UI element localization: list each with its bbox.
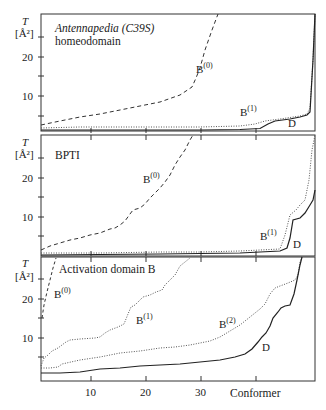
- y-tick-label-10: 10: [22, 211, 34, 223]
- panel-title: Antennapedia (C39S): [54, 22, 154, 35]
- panel-activation-domain-b: T [Å²] 20 10 Activation domain B B(0) B(…: [15, 257, 315, 399]
- y-axis-label-unit: [Å²]: [15, 27, 34, 39]
- panel-title: Activation domain B: [59, 263, 156, 275]
- series-d-line: [41, 190, 315, 255]
- panel-frame: [41, 257, 315, 381]
- label-b2: B(2): [219, 316, 236, 330]
- y-axis-label-t: T: [22, 136, 29, 148]
- panel-bpti: T [Å²] 20 10 BPTI B(0) B(1) D: [15, 135, 315, 256]
- y-axis-label-t: T: [22, 15, 29, 27]
- y-tick-label-10: 10: [22, 90, 34, 102]
- label-b1: B(1): [136, 312, 153, 326]
- label-d: D: [293, 238, 301, 250]
- y-axis-label-unit: [Å²]: [15, 270, 34, 282]
- x-axis-label: Conformer: [230, 387, 281, 399]
- label-d: D: [288, 117, 296, 129]
- panel-title: BPTI: [55, 149, 80, 161]
- label-b1: B(1): [240, 104, 257, 118]
- label-b1: B(1): [260, 228, 277, 242]
- x-tick-label-30: 30: [195, 386, 207, 398]
- panel-antennapedia: T [Å²] 20 10 Antennapedia (C39S) homeodo…: [15, 14, 315, 133]
- y-axis-label-t: T: [22, 257, 29, 269]
- label-d: D: [262, 341, 270, 353]
- figure: T [Å²] 20 10 Antennapedia (C39S) homeodo…: [0, 0, 326, 410]
- y-tick-label-20: 20: [22, 293, 34, 305]
- label-b0: B(0): [196, 61, 213, 75]
- label-b0: B(0): [143, 171, 160, 185]
- panel-subtitle: homeodomain: [55, 35, 121, 47]
- x-tick-label-10: 10: [85, 386, 97, 398]
- y-tick-label-20: 20: [22, 51, 34, 63]
- label-b0: B(0): [54, 286, 71, 300]
- y-tick-label-20: 20: [22, 172, 34, 184]
- x-tick-label-20: 20: [140, 386, 152, 398]
- y-tick-label-10: 10: [22, 332, 34, 344]
- y-axis-label-unit: [Å²]: [15, 148, 34, 160]
